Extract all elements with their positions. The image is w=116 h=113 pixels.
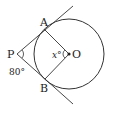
angle-arc-o xyxy=(63,50,65,58)
label-a: A xyxy=(39,16,49,29)
center-point-o xyxy=(67,52,70,55)
label-o: O xyxy=(72,48,81,61)
label-p: P xyxy=(7,48,15,61)
label-angle-80: 80° xyxy=(9,67,25,77)
angle-arc-p xyxy=(22,50,24,58)
label-angle-x: x° xyxy=(52,50,62,60)
diagram-svg: A B P O 80° x° xyxy=(0,0,116,113)
tangent-circle-diagram: A B P O 80° x° xyxy=(0,0,116,113)
label-b: B xyxy=(40,82,48,95)
